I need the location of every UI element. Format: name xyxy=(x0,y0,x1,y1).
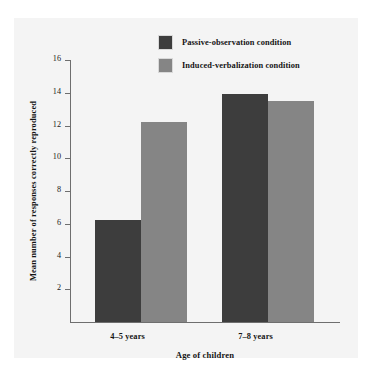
y-tick-10: 10 xyxy=(65,158,70,159)
x-axis-title: Age of children xyxy=(70,350,340,360)
y-axis-line xyxy=(70,60,71,322)
bar-passive-group-1 xyxy=(95,220,141,322)
x-tick-label-group-2: 7–8 years xyxy=(198,332,313,341)
y-tick-label-4: 4 xyxy=(57,251,61,260)
y-tick-label-6: 6 xyxy=(57,218,61,227)
legend-item-passive-observation: Passive-observation condition xyxy=(158,33,348,52)
y-tick-14: 14 xyxy=(65,93,70,94)
y-tick-6: 6 xyxy=(65,224,70,225)
y-tick-label-2: 2 xyxy=(57,283,61,292)
y-tick-label-8: 8 xyxy=(57,185,61,194)
y-tick-label-10: 10 xyxy=(53,152,61,161)
x-axis-line xyxy=(70,322,340,323)
y-tick-12: 12 xyxy=(65,126,70,127)
bar-induced-group-1 xyxy=(141,122,187,322)
y-tick-16: 16 xyxy=(65,60,70,61)
plot-area: 246810121416 xyxy=(70,60,340,322)
legend-label-passive-observation: Passive-observation condition xyxy=(182,38,291,47)
y-tick-8: 8 xyxy=(65,191,70,192)
bar-induced-group-2 xyxy=(268,101,314,322)
legend-swatch-passive-observation xyxy=(158,35,173,50)
y-tick-label-14: 14 xyxy=(53,87,61,96)
x-tick-label-group-1: 4–5 years xyxy=(70,332,185,341)
y-tick-4: 4 xyxy=(65,257,70,258)
y-tick-label-16: 16 xyxy=(53,54,61,63)
bar-passive-group-2 xyxy=(222,94,268,322)
y-axis-title: Mean number of responses correctly repro… xyxy=(26,60,40,322)
y-tick-label-12: 12 xyxy=(53,120,61,129)
bar-chart-figure: Passive-observation condition Induced-ve… xyxy=(0,0,372,380)
y-axis-title-text: Mean number of responses correctly repro… xyxy=(29,101,38,281)
y-tick-2: 2 xyxy=(65,289,70,290)
